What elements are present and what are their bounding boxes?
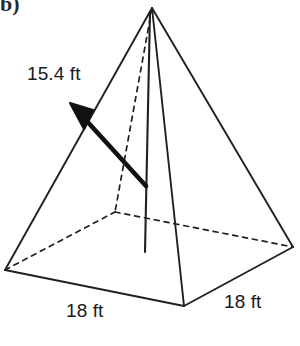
altitude-line <box>145 12 150 252</box>
pyramid-figure: b) 15.4 ft 18 ft 18 ft <box>0 0 300 346</box>
base-front-length-label: 18 ft <box>66 300 103 322</box>
slant-height-label: 15.4 ft <box>27 63 81 85</box>
slant-height-arrow <box>70 103 146 186</box>
arrow-shaft <box>84 118 146 186</box>
hidden-base-edge-back-right <box>115 212 293 247</box>
base-right-length-label: 18 ft <box>224 291 261 313</box>
